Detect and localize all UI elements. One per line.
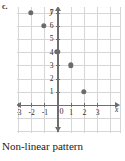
gridline-horizontal <box>17 118 121 119</box>
y-axis-tick <box>56 65 60 66</box>
gridline-horizontal <box>17 26 121 27</box>
x-tick-label: -2 <box>28 109 34 117</box>
x-tick-label: 2 <box>83 109 87 117</box>
gridline-horizontal <box>17 52 121 53</box>
y-tick-label: 6 <box>50 22 54 30</box>
y-tick-label: 1 <box>50 88 54 96</box>
item-label: c. <box>2 2 8 11</box>
y-tick-label: 4 <box>50 49 54 57</box>
data-point <box>81 89 86 94</box>
figure-non-linear-pattern: c. <box>0 0 125 161</box>
y-axis-tick <box>56 26 60 27</box>
x-axis-tick <box>44 103 45 107</box>
x-axis-tick <box>18 103 19 107</box>
y-axis-tick <box>56 13 60 14</box>
data-point <box>55 49 60 54</box>
x-axis-tick <box>71 103 72 107</box>
plot-area: -3 -2 -1 1 2 3 1 2 3 4 5 6 7 0 y x <box>17 7 121 133</box>
gridline-horizontal <box>17 79 121 80</box>
x-axis <box>19 105 118 107</box>
x-axis-tick <box>84 103 85 107</box>
data-point <box>28 10 33 15</box>
caption: Non-linear pattern <box>2 141 83 152</box>
x-tick-label: 3 <box>96 109 100 117</box>
y-tick-label: 5 <box>50 36 54 44</box>
gridline-horizontal <box>17 92 121 93</box>
y-axis-tick <box>56 92 60 93</box>
y-axis-tick <box>56 79 60 80</box>
y-axis-arrow-up-icon <box>55 7 61 11</box>
x-axis-tick <box>31 103 32 107</box>
gridline-horizontal <box>17 131 121 132</box>
y-axis-arrow-down-icon <box>55 127 61 132</box>
y-axis-label: y <box>50 8 53 16</box>
x-tick-label: 1 <box>69 109 73 117</box>
origin-label: 0 <box>60 108 64 116</box>
y-axis <box>57 10 59 132</box>
data-point <box>68 63 73 68</box>
data-point <box>41 23 46 28</box>
x-axis-tick <box>97 103 98 107</box>
y-tick-label: 2 <box>50 75 54 83</box>
x-axis-label: x <box>115 106 118 114</box>
y-tick-label: 3 <box>50 62 54 70</box>
x-tick-label: -1 <box>42 109 48 117</box>
x-tick-label: -3 <box>17 109 22 117</box>
y-axis-tick <box>56 39 60 40</box>
gridline-horizontal <box>17 39 121 40</box>
